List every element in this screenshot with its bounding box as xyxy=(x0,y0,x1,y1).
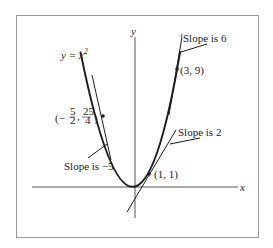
slope-label-2-text: Slope is 2 xyxy=(178,126,221,138)
point-1-1 xyxy=(147,172,151,176)
y-axis-label: y xyxy=(130,25,136,37)
curve-label: y = x2 xyxy=(60,47,88,61)
svg-text:(−: (− xyxy=(55,112,65,125)
point-3-9 xyxy=(175,67,179,71)
svg-text:2: 2 xyxy=(70,114,76,126)
svg-text:): ) xyxy=(94,112,98,125)
tangent-line-slope-6 xyxy=(169,37,182,115)
point-label-3-9: (3, 9) xyxy=(180,64,204,77)
slope-label-6: Slope is 6 xyxy=(183,32,227,44)
point-neg5half-25quarter xyxy=(101,114,105,118)
slope-2-pointer xyxy=(170,138,200,144)
x-axis-label: x xyxy=(239,181,245,193)
slope-label-neg5: Slope is −5 xyxy=(64,160,114,172)
parabola-tangent-figure: x y y = x2 (3, 9) Slope is 6 (1, 1) Slop… xyxy=(0,0,273,248)
slope-6-label-tick xyxy=(181,34,182,37)
slope-neg5-pointer xyxy=(88,144,107,158)
figure-frame xyxy=(17,16,259,238)
slope-6-pointer xyxy=(181,44,207,52)
diagram-canvas: x y y = x2 (3, 9) Slope is 6 (1, 1) Slop… xyxy=(0,0,273,248)
point-label-1-1: (1, 1) xyxy=(154,168,178,181)
point-label-neg5half-25quarter: (− 5 2 , 25 4 ) xyxy=(55,105,98,126)
svg-text:4: 4 xyxy=(85,114,91,126)
svg-text:,: , xyxy=(77,110,80,122)
